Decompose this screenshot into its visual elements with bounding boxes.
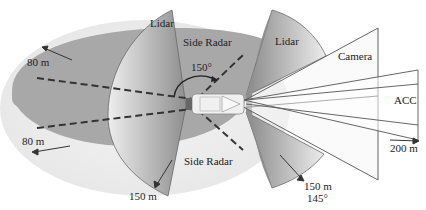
sensor-coverage-diagram: Lidar Side Radar 150° 80 m 80 m Side Rad… — [0, 0, 426, 210]
label-side-radar-top: Side Radar — [183, 36, 232, 48]
label-80m-bottom: 80 m — [22, 135, 45, 147]
label-lidar-rear: Lidar — [150, 17, 174, 29]
vehicle — [186, 94, 244, 114]
label-150m-front: 150 m — [304, 180, 332, 192]
label-angle-145: 145° — [307, 192, 328, 204]
label-80m-top: 80 m — [27, 56, 50, 68]
label-side-radar-bottom: Side Radar — [184, 155, 233, 167]
label-150m-rear: 150 m — [129, 190, 157, 202]
label-200m: 200 m — [390, 142, 418, 154]
label-angle-150: 150° — [191, 61, 212, 73]
label-lidar-front: Lidar — [275, 35, 299, 47]
label-acc: ACC — [394, 94, 417, 106]
label-camera: Camera — [338, 50, 372, 62]
